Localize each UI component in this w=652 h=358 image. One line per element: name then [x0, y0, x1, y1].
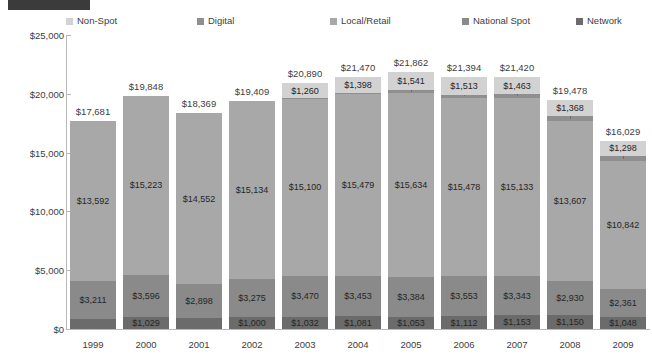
bar-segment-value-label: $3,596 [123, 291, 169, 301]
bar-segment-network[interactable]: $1,032 [282, 317, 328, 329]
bar-segment-non-spot[interactable]: $1,463 [494, 77, 540, 94]
bar-segment-local-retail[interactable]: $15,134 [229, 101, 275, 279]
bar-segment-national-spot[interactable]: $2,898 [176, 284, 222, 318]
bar-segment-network[interactable]: $919 [176, 318, 222, 329]
bar-total-label: $21,862 [388, 57, 434, 68]
bar-segment-national-spot[interactable]: $3,384 [388, 277, 434, 317]
bar-segment-value-label: $13,607 [547, 196, 593, 206]
bar-total-label: $18,369 [176, 98, 222, 109]
bar-segment-value-label: $1,150 [547, 317, 593, 327]
bar-segment-non-spot[interactable]: $1,541 [388, 72, 434, 90]
bar-segment-national-spot[interactable]: $3,211 [70, 281, 116, 319]
bar-segment-value-label: $2,930 [547, 293, 593, 303]
bar-segment-value-label: $1,032 [282, 318, 328, 328]
bar-segment-digital[interactable]: $250 [388, 90, 434, 93]
bar-segment-local-retail[interactable]: $15,478 [441, 98, 487, 276]
bar-segment-value-label: $14,552 [176, 194, 222, 204]
bar-segment-digital[interactable]: $59 [335, 93, 381, 94]
bar-total-label: $16,029 [600, 126, 646, 137]
legend-item-national-spot[interactable]: National Spot [462, 14, 530, 28]
label-leader-line [199, 319, 200, 324]
bar-segment-digital[interactable]: $278 [441, 95, 487, 98]
bar-segment-network[interactable]: $1,029 [123, 317, 169, 329]
bar-segment-digital[interactable]: $423 [547, 116, 593, 121]
legend-swatch-icon [197, 18, 204, 25]
bar-segment-value-label: $15,223 [123, 180, 169, 190]
y-axis-label: $20,000 [2, 89, 64, 100]
bar-segment-local-retail[interactable]: $14,552 [176, 113, 222, 284]
bar-stack: $1,081$3,453$15,479$59$1,398 [335, 77, 381, 329]
bar-group[interactable]: $1,150$2,930$13,607$423$1,368$19,4782008 [547, 100, 593, 329]
y-axis-label: $10,000 [2, 206, 64, 217]
legend-item-network[interactable]: Network [576, 14, 622, 28]
bar-group[interactable]: $1,112$3,553$15,478$278$1,513$21,3942006 [441, 77, 487, 329]
bar-segment-network[interactable]: $1,048 [600, 317, 646, 329]
bar-segment-value-label: $1,368 [547, 103, 593, 113]
x-axis-line [66, 329, 650, 330]
bar-segment-network[interactable]: $1,153 [494, 315, 540, 329]
bar-segment-national-spot[interactable]: $3,453 [335, 276, 381, 317]
bar-segment-local-retail[interactable]: $15,100 [282, 99, 328, 277]
bar-group[interactable]: $878$3,211$13,592$17,6811999 [70, 121, 116, 329]
bar-segment-value-label: $3,553 [441, 291, 487, 301]
bar-segment-local-retail[interactable]: $13,592 [70, 121, 116, 281]
bar-segment-local-retail[interactable]: $15,133 [494, 98, 540, 276]
bar-total-label: $20,890 [282, 68, 328, 79]
bar-total-label: $17,681 [70, 106, 116, 117]
bar-segment-non-spot[interactable]: $1,260 [282, 83, 328, 98]
bar-segment-value-label: $10,842 [600, 220, 646, 230]
y-axis-label: $15,000 [2, 148, 64, 159]
bar-segment-local-retail[interactable]: $15,479 [335, 94, 381, 276]
bar-segment-non-spot[interactable]: $1,398 [335, 77, 381, 93]
bar-segment-local-retail[interactable]: $10,842 [600, 161, 646, 289]
bar-segment-national-spot[interactable]: $3,275 [229, 279, 275, 318]
bar-segment-national-spot[interactable]: $3,596 [123, 275, 169, 317]
x-axis-label: 2005 [388, 339, 434, 350]
bar-segment-national-spot[interactable]: $2,361 [600, 289, 646, 317]
bar-segment-value-label: $13,592 [70, 196, 116, 206]
bar-segment-national-spot[interactable]: $3,553 [441, 276, 487, 317]
legend-item-non-spot[interactable]: Non-Spot [66, 14, 117, 28]
bar-segment-local-retail[interactable]: $15,223 [123, 96, 169, 275]
bar-group[interactable]: $1,029$3,596$15,223$19,8482000 [123, 96, 169, 329]
bar-segment-network[interactable]: $1,053 [388, 317, 434, 329]
legend-item-label: Digital [208, 16, 234, 26]
bar-segment-national-spot[interactable]: $3,470 [282, 276, 328, 317]
bar-group[interactable]: $1,032$3,470$15,100$28$1,260$20,8902003 [282, 83, 328, 329]
bar-segment-digital[interactable]: $328 [494, 94, 540, 98]
bar-segment-national-spot[interactable]: $3,343 [494, 276, 540, 315]
bar-segment-value-label: $15,134 [229, 185, 275, 195]
bar-segment-national-spot[interactable]: $2,930 [547, 281, 593, 315]
bar-stack: $878$3,211$13,592 [70, 121, 116, 329]
bar-group[interactable]: $1,153$3,343$15,133$328$1,463$21,4202007 [494, 77, 540, 329]
bar-segment-network[interactable]: $1,150 [547, 315, 593, 329]
bar-segment-digital[interactable]: $480 [600, 156, 646, 162]
x-axis-label: 2006 [441, 339, 487, 350]
bar-segment-network[interactable]: $878 [70, 319, 116, 329]
x-axis-label: 2009 [600, 339, 646, 350]
bar-segment-local-retail[interactable]: $15,634 [388, 93, 434, 277]
bar-segment-network[interactable]: $1,081 [335, 316, 381, 329]
bar-segment-value-label: $1,112 [441, 318, 487, 328]
bar-segment-non-spot[interactable]: $1,513 [441, 77, 487, 94]
bar-group[interactable]: $1,053$3,384$15,634$250$1,541$21,8622005 [388, 72, 434, 329]
legend-item-label: Network [587, 16, 622, 26]
bar-group[interactable]: $1,048$2,361$10,842$480$1,298$16,0292009 [600, 141, 646, 330]
bar-segment-value-label: $15,479 [335, 180, 381, 190]
legend-item-label: Local/Retail [341, 16, 391, 26]
bar-segment-network[interactable]: $1,112 [441, 316, 487, 329]
bar-segment-non-spot[interactable]: $1,298 [600, 141, 646, 156]
bar-segment-value-label: $2,898 [176, 296, 222, 306]
bar-segment-value-label: $1,463 [494, 81, 540, 91]
bar-group[interactable]: $1,000$3,275$15,134$19,4092002 [229, 101, 275, 329]
bar-segment-non-spot[interactable]: $1,368 [547, 100, 593, 116]
bar-group[interactable]: $1,081$3,453$15,479$59$1,398$21,4702004 [335, 77, 381, 329]
bar-group[interactable]: $919$2,898$14,552$18,3692001 [176, 113, 222, 329]
legend-item-local-retail[interactable]: Local/Retail [330, 14, 391, 28]
legend-item-digital[interactable]: Digital [197, 14, 234, 28]
x-axis-label: 2002 [229, 339, 275, 350]
bar-segment-value-label: $1,048 [600, 318, 646, 328]
bar-segment-local-retail[interactable]: $13,607 [547, 121, 593, 281]
legend-item-label: National Spot [473, 16, 530, 26]
bar-segment-network[interactable]: $1,000 [229, 317, 275, 329]
